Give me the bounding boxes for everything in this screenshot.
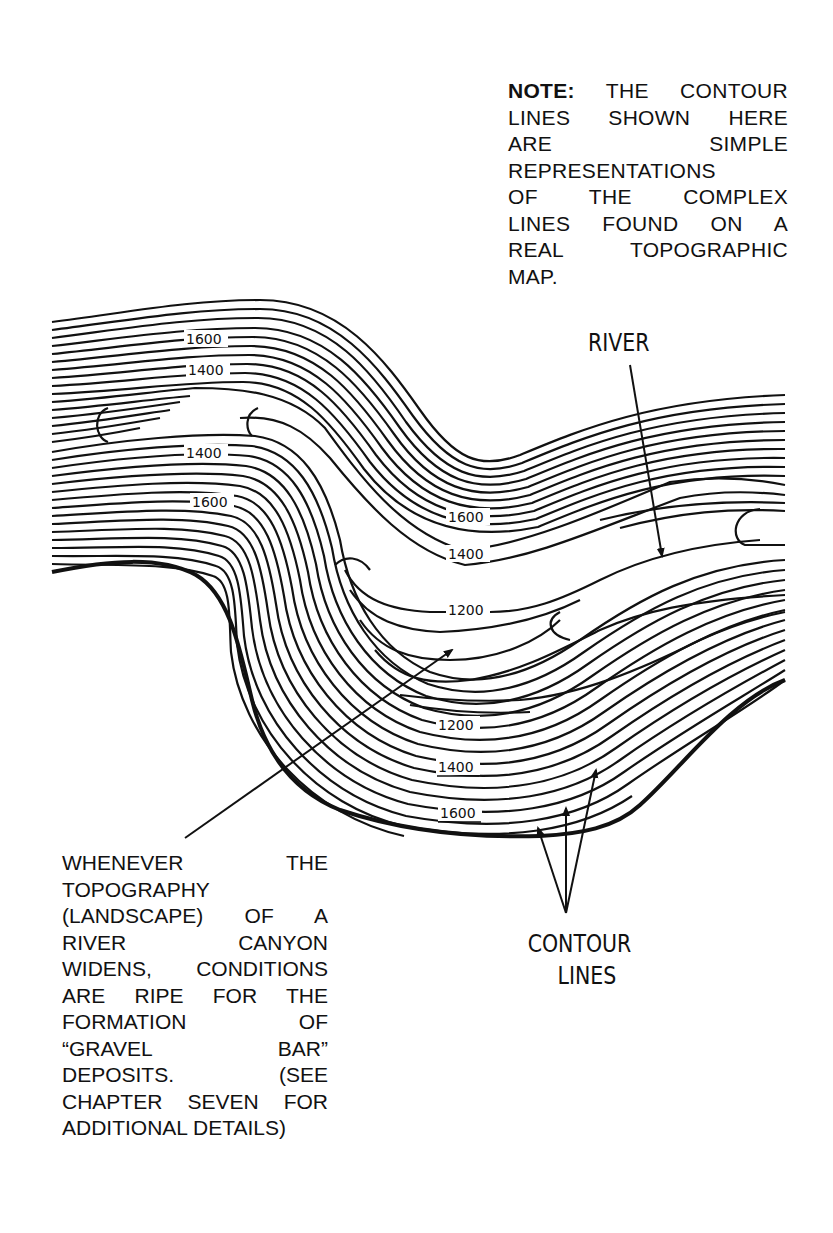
elevation-label: 1600 [192, 494, 228, 510]
elevation-label: 1200 [438, 717, 474, 733]
river-label: RIVER [588, 328, 650, 357]
caption-line: “GRAVEL BAR” [62, 1036, 328, 1063]
note-line-1: NOTE: THE CONTOUR [508, 78, 788, 105]
diagram-page: 1600 1400 1400 1600 1600 1400 1200 1200 … [0, 0, 833, 1233]
elevation-label: 1400 [448, 546, 484, 562]
caption-line: TOPOGRAPHY [62, 877, 328, 904]
note-line-2: LINES SHOWN HERE [508, 105, 788, 132]
contour-arrow-right [566, 770, 596, 913]
elevation-label: 1600 [448, 509, 484, 525]
elevation-label: 1200 [448, 602, 484, 618]
caption-line: FORMATION OF [62, 1009, 328, 1036]
north-bank-contours [52, 300, 785, 565]
caption-line: (LANDSCAPE) OF A [62, 903, 328, 930]
low-elevation-contours [345, 540, 785, 713]
elevation-label: 1400 [188, 362, 224, 378]
gravel-bar-arrow [185, 650, 452, 838]
elevation-label: 1400 [186, 445, 222, 461]
caption-text-block: WHENEVER THE TOPOGRAPHY (LANDSCAPE) OF A… [62, 850, 328, 1142]
caption-line: ADDITIONAL DETAILS) [62, 1115, 328, 1142]
caption-line: CHAPTER SEVEN FOR [62, 1089, 328, 1116]
caption-line: RIVER CANYON [62, 930, 328, 957]
contour-arrow-left [538, 828, 566, 913]
note-line-7: REAL TOPOGRAPHIC [508, 237, 788, 264]
note-line-8: MAP. [508, 264, 788, 291]
note-line-4: REPRESENTATIONS [508, 158, 788, 185]
contour-lines-label: CONTOUR LINES [518, 928, 641, 992]
caption-line: DEPOSITS. (SEE [62, 1062, 328, 1089]
elevation-label: 1600 [186, 331, 222, 347]
contour-label-line-1: CONTOUR [518, 928, 641, 960]
note-line-3: ARE SIMPLE [508, 131, 788, 158]
heavy-boundary-lines [52, 562, 785, 836]
note-line-5: OF THE COMPLEX [508, 184, 788, 211]
note-line-6: LINES FOUND ON A [508, 211, 788, 238]
contour-label-line-2: LINES [518, 960, 641, 992]
caption-line: WIDENS, CONDITIONS [62, 956, 328, 983]
note-text-block: NOTE: THE CONTOUR LINES SHOWN HERE ARE S… [508, 78, 788, 290]
elevation-label: 1600 [440, 805, 476, 821]
caption-line: WHENEVER THE [62, 850, 328, 877]
caption-line: ARE RIPE FOR THE [62, 983, 328, 1010]
note-lead: NOTE: [508, 79, 575, 102]
elevation-label: 1400 [438, 759, 474, 775]
